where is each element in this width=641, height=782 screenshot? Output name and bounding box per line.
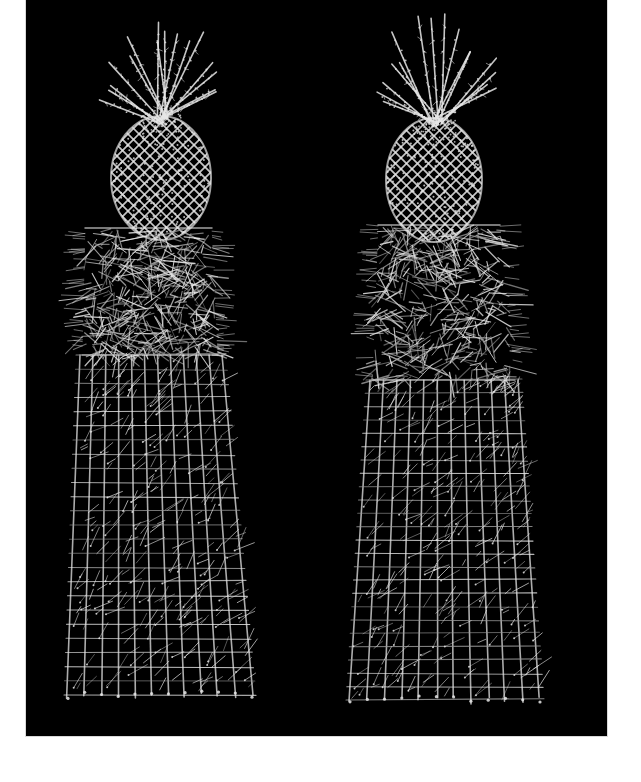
black-backdrop [26,0,607,736]
page: Two wire-mesh sculptures: pineapple fini… [0,0,641,782]
photograph: Two wire-mesh sculptures: pineapple fini… [26,0,607,736]
sculpture-scene [26,0,607,736]
